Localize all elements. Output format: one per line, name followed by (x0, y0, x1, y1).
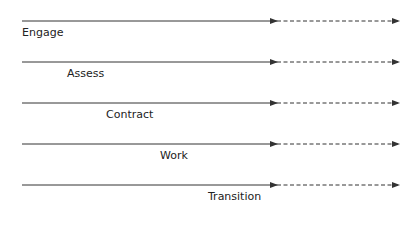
phase-label: Work (160, 150, 188, 162)
phase-label: Contract (106, 109, 153, 121)
phase-label: Engage (22, 27, 63, 39)
phase-label: Assess (67, 68, 104, 80)
phase-label: Transition (208, 191, 261, 203)
